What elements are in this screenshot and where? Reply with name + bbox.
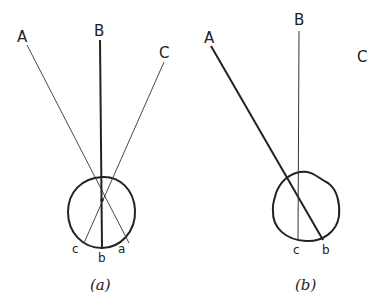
ray-c xyxy=(84,62,164,243)
caption-b: (b) xyxy=(295,276,316,294)
label-a: a xyxy=(118,242,125,256)
label-b: b xyxy=(322,243,330,257)
label-b: b xyxy=(98,251,106,265)
panel-b: A B C c b (b) xyxy=(204,11,367,294)
nodal-point-a xyxy=(100,198,104,202)
eye-ray-diagram: A B C c b a (a) A B C c b (b) xyxy=(0,0,378,305)
ray-a xyxy=(27,45,129,243)
label-A: A xyxy=(17,28,28,46)
label-C: C xyxy=(357,48,367,66)
eye-outline-b xyxy=(273,172,339,241)
ray-b xyxy=(100,40,102,248)
label-B: B xyxy=(94,22,104,40)
ray-a xyxy=(211,46,323,240)
label-B: B xyxy=(294,11,304,29)
label-C: C xyxy=(159,44,169,62)
panel-a: A B C c b a (a) xyxy=(17,22,169,294)
label-c: c xyxy=(293,243,300,257)
ray-b xyxy=(298,31,299,241)
caption-a: (a) xyxy=(90,276,111,294)
label-A: A xyxy=(204,29,215,47)
label-c: c xyxy=(72,242,79,256)
